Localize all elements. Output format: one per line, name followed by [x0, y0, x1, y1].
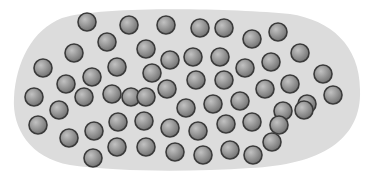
particle-container-diagram — [0, 0, 366, 185]
particle — [166, 143, 184, 161]
particle — [281, 75, 299, 93]
particle — [211, 48, 229, 66]
particle — [236, 59, 254, 77]
particle — [57, 75, 75, 93]
particle — [295, 101, 313, 119]
particle — [108, 58, 126, 76]
particle — [29, 116, 47, 134]
particle — [83, 68, 101, 86]
particle — [189, 122, 207, 140]
particle — [243, 30, 261, 48]
particle — [75, 88, 93, 106]
particle — [263, 133, 281, 151]
particle — [204, 95, 222, 113]
particle — [78, 13, 96, 31]
particle — [137, 88, 155, 106]
particle — [157, 16, 175, 34]
particle — [60, 129, 78, 147]
particle — [85, 122, 103, 140]
particle — [262, 53, 280, 71]
particle — [270, 116, 288, 134]
particle — [187, 71, 205, 89]
particle — [256, 80, 274, 98]
particle — [50, 101, 68, 119]
particle — [291, 44, 309, 62]
particle — [177, 99, 195, 117]
particle — [269, 23, 287, 41]
particle — [158, 80, 176, 98]
particle — [184, 48, 202, 66]
particle — [231, 92, 249, 110]
particle — [161, 51, 179, 69]
particle — [137, 40, 155, 58]
particle — [221, 141, 239, 159]
particle — [191, 19, 209, 37]
particle — [314, 65, 332, 83]
particle — [194, 146, 212, 164]
particle — [217, 115, 235, 133]
particle — [65, 44, 83, 62]
particle — [25, 88, 43, 106]
particle — [161, 119, 179, 137]
particle — [244, 146, 262, 164]
particle — [324, 86, 342, 104]
particle — [109, 113, 127, 131]
particle — [98, 33, 116, 51]
particle — [84, 149, 102, 167]
particle — [103, 85, 121, 103]
particle — [215, 71, 233, 89]
particle — [135, 112, 153, 130]
particle — [243, 113, 261, 131]
particle — [34, 59, 52, 77]
particle — [215, 19, 233, 37]
particle — [108, 138, 126, 156]
particle — [143, 64, 161, 82]
particle — [137, 138, 155, 156]
particle — [120, 16, 138, 34]
